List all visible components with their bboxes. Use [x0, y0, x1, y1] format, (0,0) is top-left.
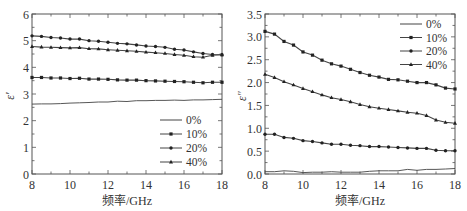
- square-marker-icon: [59, 76, 62, 79]
- y-tick-label: 6: [23, 8, 29, 22]
- y-tick-label: 0.0: [247, 168, 262, 182]
- y-tick-label: 3.0: [247, 30, 262, 44]
- x-tick-label: 8: [29, 178, 35, 192]
- square-marker-icon: [182, 80, 185, 83]
- y-tick-label: 0: [23, 168, 29, 182]
- circle-marker-icon: [49, 36, 52, 39]
- y-tick-label: 3: [23, 88, 29, 102]
- circle-marker-icon: [415, 147, 418, 150]
- circle-marker-icon: [409, 49, 412, 52]
- figure: 810121416180123456 0%10%20%40% 频率/GHz ε′…: [0, 0, 467, 211]
- series-0pct: [265, 169, 455, 173]
- circle-marker-icon: [30, 34, 33, 37]
- y-tick-label: 1.0: [247, 122, 262, 136]
- square-marker-icon: [425, 81, 428, 84]
- series-20pct: [30, 34, 223, 56]
- circle-marker-icon: [425, 147, 428, 150]
- x-axis-title: 频率/GHz: [102, 193, 152, 208]
- square-marker-icon: [406, 80, 409, 83]
- square-marker-icon: [320, 59, 323, 62]
- square-marker-icon: [358, 71, 361, 74]
- circle-marker-icon: [163, 46, 166, 49]
- circle-marker-icon: [406, 146, 409, 149]
- series-40pct: [263, 72, 457, 125]
- legend-item: 20%: [400, 45, 448, 57]
- circle-marker-icon: [116, 42, 119, 45]
- legend-label: 40%: [186, 156, 208, 168]
- circle-marker-icon: [173, 48, 176, 51]
- circle-marker-icon: [169, 146, 172, 149]
- y-tick-label: 1: [23, 141, 29, 155]
- circle-marker-icon: [377, 145, 380, 148]
- square-marker-icon: [330, 62, 333, 65]
- chart-epsilon-imag: 810121416180.00.51.01.52.02.53.03.5 0%10…: [235, 8, 461, 209]
- legend-item: 40%: [160, 156, 208, 168]
- square-marker-icon: [349, 68, 352, 71]
- square-marker-icon: [173, 80, 176, 83]
- legend-label: 0%: [186, 114, 202, 126]
- square-marker-icon: [201, 81, 204, 84]
- x-tick-label: 10: [297, 178, 309, 192]
- x-tick-label: 14: [140, 178, 152, 192]
- triangle-marker-icon: [263, 72, 267, 76]
- square-marker-icon: [415, 81, 418, 84]
- circle-marker-icon: [68, 37, 71, 40]
- circle-marker-icon: [396, 146, 399, 149]
- circle-marker-icon: [144, 44, 147, 47]
- square-marker-icon: [49, 76, 52, 79]
- square-marker-icon: [444, 86, 447, 89]
- square-marker-icon: [116, 78, 119, 81]
- x-tick-label: 14: [373, 178, 385, 192]
- circle-marker-icon: [330, 143, 333, 146]
- x-axis-title: 频率/GHz: [335, 193, 385, 208]
- legend-label: 20%: [186, 142, 208, 154]
- legend-item: 0%: [400, 18, 442, 30]
- square-marker-icon: [311, 54, 314, 57]
- square-marker-icon: [301, 50, 304, 53]
- y-tick-label: 5: [23, 34, 29, 48]
- square-marker-icon: [40, 76, 43, 79]
- circle-marker-icon: [311, 140, 314, 143]
- x-tick-label: 16: [411, 178, 423, 192]
- y-axis-title: ε″: [235, 90, 249, 101]
- square-marker-icon: [434, 83, 437, 86]
- chart-epsilon-real: 810121416180123456 0%10%20%40% 频率/GHz ε′: [3, 8, 228, 209]
- circle-marker-icon: [40, 35, 43, 38]
- square-marker-icon: [169, 132, 172, 135]
- circle-marker-icon: [301, 139, 304, 142]
- data-series: [30, 34, 224, 104]
- x-tick-label: 10: [64, 178, 76, 192]
- x-tick-label: 18: [449, 178, 461, 192]
- circle-marker-icon: [292, 137, 295, 140]
- legend-item: 10%: [400, 32, 448, 44]
- square-marker-icon: [125, 79, 128, 82]
- circle-marker-icon: [78, 37, 81, 40]
- legend-label: 40%: [426, 59, 448, 71]
- square-marker-icon: [154, 79, 157, 82]
- square-marker-icon: [273, 33, 276, 36]
- circle-marker-icon: [201, 52, 204, 55]
- y-tick-label: 2: [23, 114, 29, 128]
- square-marker-icon: [211, 81, 214, 84]
- square-marker-icon: [87, 77, 90, 80]
- y-tick-label: 2.0: [247, 76, 262, 90]
- square-marker-icon: [106, 78, 109, 81]
- circle-marker-icon: [182, 48, 185, 51]
- circle-marker-icon: [368, 145, 371, 148]
- legend: 0%10%20%40%: [160, 114, 208, 168]
- square-marker-icon: [377, 75, 380, 78]
- circle-marker-icon: [263, 133, 266, 136]
- x-tick-label: 16: [178, 178, 190, 192]
- square-marker-icon: [144, 79, 147, 82]
- legend: 0%10%20%40%: [400, 18, 448, 71]
- x-tick-label: 12: [335, 178, 347, 192]
- square-marker-icon: [163, 80, 166, 83]
- circle-marker-icon: [434, 149, 437, 152]
- y-tick-label: 3.5: [247, 8, 262, 22]
- square-marker-icon: [78, 77, 81, 80]
- y-axis-title: ε′: [3, 92, 17, 100]
- circle-marker-icon: [273, 133, 276, 136]
- circle-marker-icon: [125, 42, 128, 45]
- circle-marker-icon: [59, 36, 62, 39]
- circle-marker-icon: [87, 39, 90, 42]
